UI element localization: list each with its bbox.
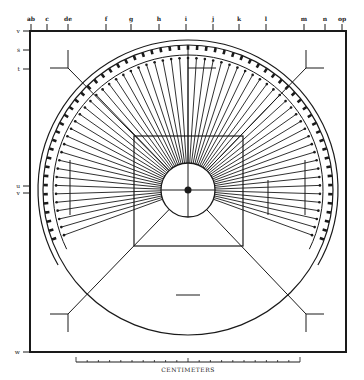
spoke-end-dot [63,234,66,237]
spoke-end-dot [319,193,322,196]
band-glyph [45,211,50,214]
top-tick-label: f [105,15,108,22]
spoke-end-dot [60,226,63,229]
left-tick-label: t [18,65,21,72]
spoke [211,121,301,176]
spoke-end-dot [58,159,61,162]
band-glyph [43,193,47,196]
scale-label: CENTIMETERS [161,366,215,373]
spoke-end-dot [319,184,322,187]
spoke-end-dot [55,201,58,204]
spoke [193,60,213,163]
top-tick-label: l [265,15,268,22]
band-glyph [159,48,162,53]
spoke-end-dot [70,127,73,130]
spoke-end-dot [55,193,58,196]
spoke-end-dot [66,135,69,138]
spoke [163,60,183,163]
spoke-end-dot [137,66,140,69]
center-dot [185,187,192,194]
spoke-end-dot [318,201,321,204]
spoke-end-dot [108,83,111,86]
corner-diagonal [207,210,306,314]
spoke-end-dot [79,113,82,116]
spoke-end-dot [318,176,321,179]
spoke [56,191,161,194]
spoke [64,199,163,235]
spoke-end-dot [311,234,314,237]
spoke [59,160,161,184]
target-diagram: abcdefghijklmnopvstuvw CENTIMETERS [0,0,364,380]
band-glyph [44,174,49,177]
spoke-end-dot [304,127,307,130]
spoke [213,199,312,235]
spoke-end-dot [162,59,165,62]
spoke-end-dot [145,63,148,66]
spoke-end-dot [153,61,156,64]
top-tick-label: j [211,15,214,23]
top-tick-label: ab [27,15,35,22]
spoke-end-dot [284,100,287,103]
left-tick-label: s [17,46,20,53]
top-tick-label: op [338,15,346,23]
band-glyph [213,48,216,53]
center-structure [43,45,333,335]
band-glyph [327,174,332,177]
spoke-end-dot [115,78,118,81]
spoke-end-dot [56,209,59,212]
left-tick-label: v [16,189,21,196]
spoke-end-dot [317,167,320,170]
spoke-end-dot [212,59,215,62]
band-glyph [328,184,332,187]
left-tick-label: v [16,27,21,34]
diagram-canvas: abcdefghijklmnopvstuvw CENTIMETERS [0,0,364,380]
top-tick-label: de [64,15,72,22]
corner-diagonal [68,209,169,314]
top-tick-label: h [157,15,162,22]
band-glyph [43,184,47,187]
spoke [215,191,320,194]
band-glyph [328,193,332,196]
spoke-end-dot [195,57,198,60]
top-tick-label: c [45,15,49,22]
band-glyph [177,46,180,51]
spoke-end-dot [259,78,262,81]
centimeter-scale-bar: CENTIMETERS [76,357,300,373]
spoke-end-dot [317,209,320,212]
spoke [203,79,260,167]
spoke-end-dot [101,88,104,91]
spoke [201,75,252,167]
top-tick-label: m [301,15,308,22]
spoke-end-dot [60,151,63,154]
spoke-end-dot [307,135,310,138]
top-tick-label: n [323,15,328,22]
left-tick-label: u [16,182,20,189]
spoke-end-dot [170,58,173,61]
spoke [57,193,162,203]
spoke-end-dot [315,159,318,162]
spoke-end-dot [204,58,207,61]
spoke-end-dot [56,167,59,170]
band-glyph [168,46,171,51]
spoke-end-dot [299,120,302,123]
spoke [123,75,174,167]
spoke [75,121,165,176]
band-glyph [326,211,331,214]
spoke-end-dot [228,63,231,66]
spoke-end-dot [84,106,87,109]
spoke [116,79,173,167]
band-glyph [326,165,331,168]
spoke [214,160,316,184]
spoke [215,193,320,203]
spoke-end-dot [55,184,58,187]
spoke-end-dot [313,151,316,154]
top-tick-label: g [129,15,134,23]
top-tick-label: i [185,15,188,22]
band-glyph [328,202,333,205]
band-glyph [44,202,49,205]
band-glyph [45,165,50,168]
spoke [59,196,161,219]
spoke-end-dot [55,176,58,179]
spoke-end-dot [89,100,92,103]
band-glyph [196,46,199,51]
